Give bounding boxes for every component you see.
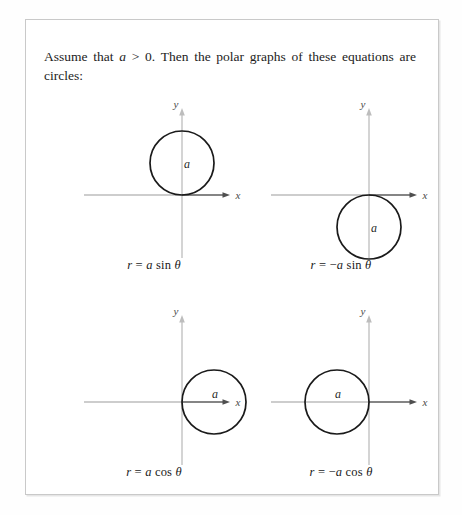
caption-theta: θ: [365, 258, 371, 272]
caption-function: cos: [152, 465, 176, 479]
figure-a-cos-theta-caption: r = a cos θ: [54, 465, 254, 480]
caption-sign: −: [329, 465, 336, 479]
figure-neg-a-sin-theta-caption: r = −a sin θ: [241, 258, 441, 273]
caption-theta: θ: [174, 258, 180, 272]
x-axis-label: x: [422, 189, 428, 201]
radius-label-a: a: [371, 221, 377, 235]
y-axis-arrow: [179, 315, 185, 323]
x-axis-arrow: [223, 399, 231, 405]
figure-a-cos-theta: y x a r = a cos θ: [54, 305, 254, 495]
radius-label-a: a: [184, 157, 190, 171]
y-axis-arrow: [366, 108, 372, 116]
x-axis-arrow: [223, 192, 231, 198]
x-axis-arrow: [410, 192, 418, 198]
caption-theta: θ: [176, 465, 182, 479]
y-axis-label: y: [360, 305, 366, 317]
figure-a-sin-theta-caption: r = a sin θ: [54, 258, 254, 273]
radius-label-a: a: [335, 387, 341, 401]
caption-equals: =: [132, 258, 146, 272]
x-axis-label: x: [422, 396, 428, 408]
figure-a-sin-theta: y x a r = a sin θ: [54, 98, 254, 288]
radius-label-a: a: [212, 387, 218, 401]
caption-equals: =: [316, 258, 330, 272]
y-axis-arrow: [366, 315, 372, 323]
figure-neg-a-sin-theta-graphic: y x a: [241, 98, 441, 263]
y-axis-arrow: [179, 108, 185, 116]
caption-equals: =: [315, 465, 329, 479]
x-axis-label: x: [235, 396, 241, 408]
page-canvas: Assume that a > 0. Then the polar graphs…: [0, 0, 462, 515]
figure-neg-a-cos-theta-caption: r = −a cos θ: [241, 465, 441, 480]
caption-sign: −: [330, 258, 337, 272]
caption-theta: θ: [366, 465, 372, 479]
intro-paragraph: Assume that a > 0. Then the polar graphs…: [44, 47, 416, 86]
caption-function: sin: [343, 258, 365, 272]
caption-function: cos: [342, 465, 366, 479]
figure-neg-a-cos-theta: y x a r = −a cos θ: [241, 305, 441, 495]
figure-neg-a-cos-theta-graphic: y x a: [241, 305, 441, 470]
y-axis-label: y: [360, 98, 366, 110]
figure-a-cos-theta-graphic: y x a: [54, 305, 254, 470]
figure-neg-a-sin-theta: y x a r = −a sin θ: [241, 98, 441, 288]
x-axis-label: x: [235, 189, 241, 201]
figure-a-sin-theta-graphic: y x a: [54, 98, 254, 263]
intro-text-before: Assume that: [44, 49, 119, 64]
y-axis-label: y: [173, 305, 179, 317]
x-axis-arrow: [410, 399, 418, 405]
caption-equals: =: [131, 465, 145, 479]
intro-variable-a: a: [119, 49, 126, 64]
caption-function: sin: [153, 258, 175, 272]
y-axis-label: y: [173, 98, 179, 110]
content-panel: Assume that a > 0. Then the polar graphs…: [25, 19, 439, 495]
